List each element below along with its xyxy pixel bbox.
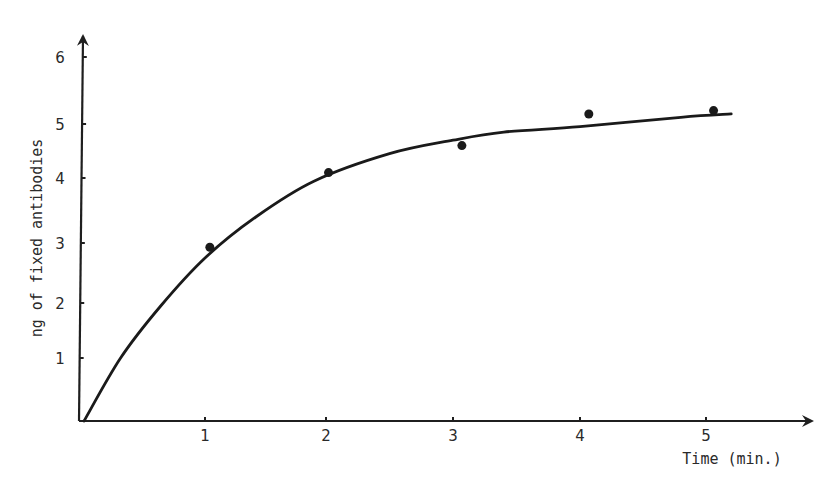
x-tick-label: 2 (321, 427, 331, 445)
data-point (457, 141, 466, 150)
y-tick-label: 2 (55, 295, 65, 313)
x-tick-label: 3 (448, 427, 458, 445)
y-axis-title: ng of fixed antibodies (28, 139, 46, 338)
x-axis-title: Time (min.) (682, 450, 781, 468)
y-tick-label: 1 (55, 350, 65, 368)
data-point (205, 243, 214, 252)
data-point (324, 168, 333, 177)
y-tick-label: 4 (55, 170, 65, 188)
x-tick-label: 5 (701, 427, 711, 445)
data-point (709, 106, 718, 115)
chart: 123456 12345 ng of fixed antibodies Time… (0, 0, 839, 488)
y-axis (79, 36, 83, 421)
x-tick-label: 4 (575, 427, 585, 445)
x-tick-label: 1 (200, 427, 210, 445)
data-points (205, 106, 718, 252)
data-point (584, 109, 593, 118)
y-tick-label: 6 (55, 49, 65, 67)
y-tick-label: 5 (55, 116, 65, 134)
fitted-curve (84, 114, 731, 421)
y-tick-label: 3 (55, 235, 65, 253)
